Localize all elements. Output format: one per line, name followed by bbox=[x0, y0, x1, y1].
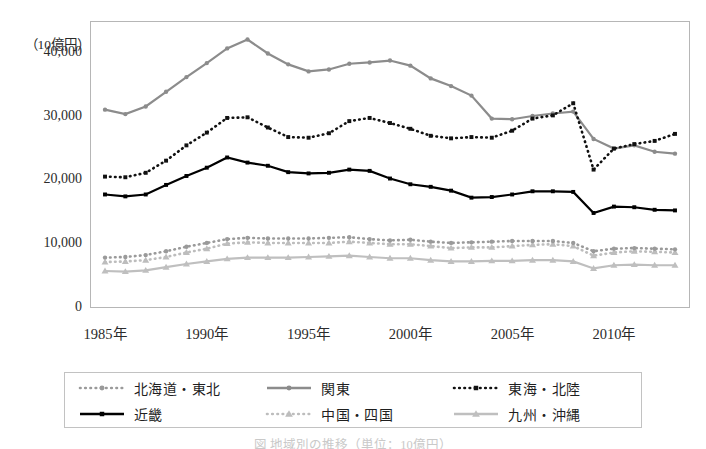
y-axis-tick: 20,000 bbox=[8, 172, 82, 186]
legend-marker-chugoku_shikoku-icon bbox=[264, 406, 314, 422]
chart-figure: （10億円） 40,00030,00020,00010,0000 1985年19… bbox=[0, 0, 706, 449]
legend-marker-hokkaido_tohoku-icon bbox=[77, 380, 127, 396]
legend-item-kinki[interactable]: 近畿 bbox=[77, 401, 264, 427]
y-axis-tick: 10,000 bbox=[8, 236, 82, 250]
x-axis-tick: 1995年 bbox=[269, 327, 349, 342]
legend-marker-kinki-icon bbox=[77, 406, 127, 422]
chart-legend: 北海道・東北関東東海・北陸近畿中国・四国九州・沖縄 bbox=[64, 372, 642, 428]
y-axis-tick: 0 bbox=[8, 300, 82, 314]
plot-area bbox=[90, 21, 690, 308]
legend-label-chugoku_shikoku: 中国・四国 bbox=[321, 404, 393, 424]
x-axis-tick: 2010年 bbox=[574, 327, 654, 342]
legend-item-chugoku_shikoku[interactable]: 中国・四国 bbox=[264, 401, 451, 427]
legend-label-kanto: 関東 bbox=[321, 378, 350, 398]
legend-item-kyushu_okinawa[interactable]: 九州・沖縄 bbox=[451, 401, 638, 427]
x-axis-tick: 1990年 bbox=[167, 327, 247, 342]
legend-marker-tokai_hokuriku-icon bbox=[451, 380, 501, 396]
x-axis-tick: 2000年 bbox=[370, 327, 450, 342]
legend-marker-kanto-icon bbox=[264, 380, 314, 396]
figure-caption: 図 地域別の推移（単位：10億円） bbox=[0, 434, 706, 449]
legend-label-kyushu_okinawa: 九州・沖縄 bbox=[508, 404, 580, 424]
legend-item-tokai_hokuriku[interactable]: 東海・北陸 bbox=[451, 375, 638, 401]
y-axis-tick: 30,000 bbox=[8, 109, 82, 123]
legend-item-hokkaido_tohoku[interactable]: 北海道・東北 bbox=[77, 375, 264, 401]
x-axis-tick: 1985年 bbox=[65, 327, 145, 342]
x-axis-tick: 2005年 bbox=[472, 327, 552, 342]
legend-marker-kyushu_okinawa-icon bbox=[451, 406, 501, 422]
legend-item-kanto[interactable]: 関東 bbox=[264, 375, 451, 401]
legend-label-kinki: 近畿 bbox=[134, 404, 163, 424]
legend-label-tokai_hokuriku: 東海・北陸 bbox=[508, 378, 580, 398]
y-axis-tick: 40,000 bbox=[8, 45, 82, 59]
legend-label-hokkaido_tohoku: 北海道・東北 bbox=[134, 378, 220, 398]
